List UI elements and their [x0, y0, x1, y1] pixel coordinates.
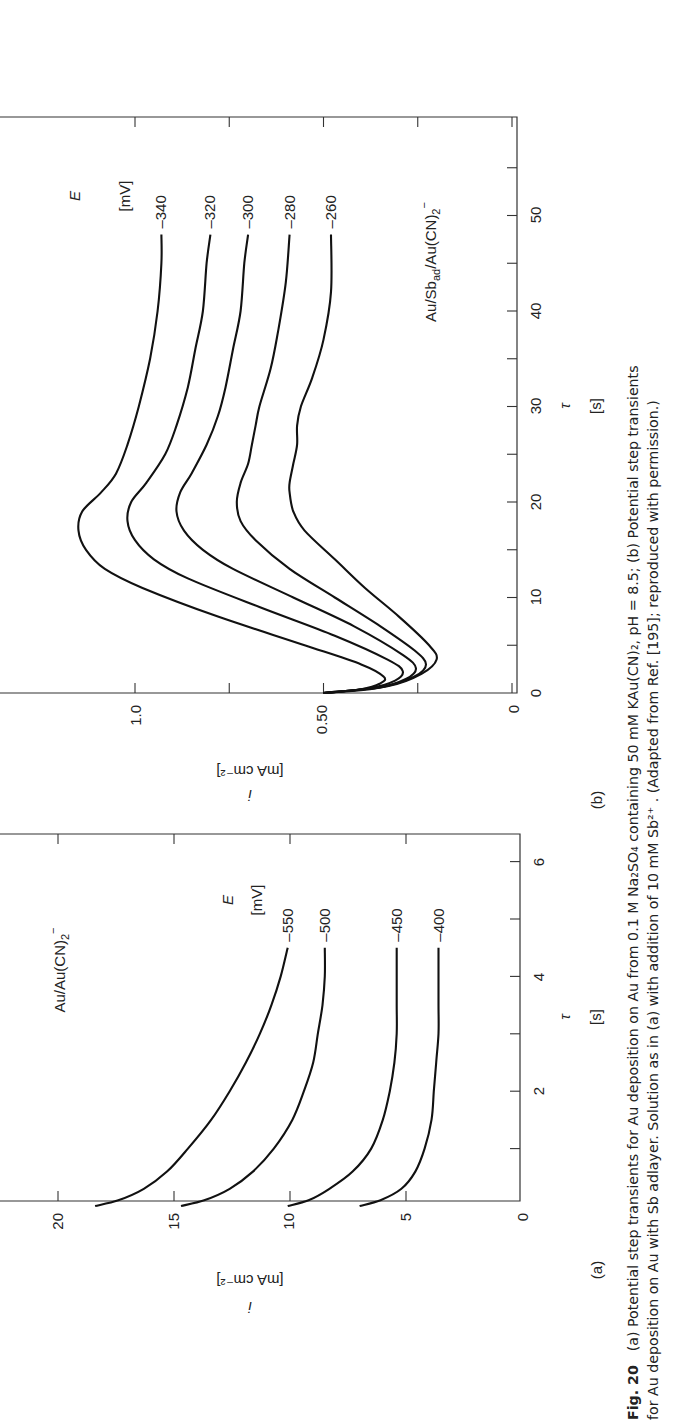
legend-label: –550 — [279, 908, 296, 941]
panel-a-ytick-label: 10 — [280, 1213, 297, 1230]
panel-a-xtick-label: 2 — [530, 1087, 547, 1095]
panel-b-curves — [78, 235, 437, 693]
caption-text-1: (a) Potential step transients for Au dep… — [625, 365, 641, 1351]
panel-b-ytick-label: 0 — [505, 705, 522, 713]
curve--340 — [78, 235, 385, 693]
legend-label: –500 — [316, 908, 333, 941]
panel-a-ytick-label: 15 — [165, 1213, 182, 1230]
panel-b-xtick-label: 10 — [527, 589, 544, 606]
curve--450 — [288, 948, 397, 1206]
panel-a-current-ticks — [58, 834, 406, 1201]
legend-label: –400 — [430, 908, 447, 941]
panel-a-yunit: [mA cm⁻²] — [216, 1272, 283, 1289]
figure-canvas: 1.0 0.50 0 0 10 20 30 40 50 τ [s] [mA cm… — [0, 0, 699, 1423]
legend-label: –280 — [281, 195, 298, 228]
panel-a-legend-title: E — [219, 894, 236, 905]
curve--320 — [127, 235, 403, 693]
panel-b-legend-unit: [mV] — [116, 181, 133, 212]
panel-b-legend: –340–320–300–280–260 — [152, 195, 339, 228]
panel-b-xlabel: τ — [556, 402, 573, 409]
figure-caption: Fig. 20(a) Potential step transients for… — [625, 365, 661, 1420]
panel-b-xtick-label: 0 — [527, 689, 544, 697]
caption-line-2: for Au deposition on Au with Sb adlayer.… — [645, 400, 661, 1420]
panel-a-ytick-label: 20 — [49, 1213, 66, 1230]
caption-line-1: Fig. 20(a) Potential step transients for… — [625, 365, 641, 1420]
curve--500 — [181, 948, 325, 1206]
panel-b-ytick-label: 0.50 — [313, 705, 330, 734]
panel-b-xtick-label: 50 — [527, 207, 544, 224]
panel-b-time-ticks — [507, 168, 517, 646]
curve--400 — [360, 948, 439, 1206]
panel-b-xtick-label: 40 — [527, 303, 544, 320]
panel-a-curves — [95, 948, 439, 1206]
panel-b-system-label: Au/Sbad/Au(CN)2− — [418, 202, 442, 322]
panel-a-time-ticks — [510, 862, 520, 1149]
legend-label: –450 — [388, 908, 405, 941]
panel-b-xtick-label: 20 — [527, 494, 544, 511]
panel-b: 1.0 0.50 0 0 10 20 30 40 50 τ [s] [mA cm… — [0, 117, 605, 809]
panel-a-xtick-label: 6 — [530, 858, 547, 866]
panel-a-legend: –550–500–450–400 — [279, 908, 447, 941]
panel-a-xtick-label: 4 — [530, 973, 547, 981]
figure-number: Fig. 20 — [625, 1365, 641, 1420]
legend-label: –340 — [152, 195, 169, 228]
panel-b-ylabel: i — [248, 787, 252, 804]
panel-a-label: (a) — [588, 1261, 605, 1279]
legend-label: –300 — [239, 195, 256, 228]
legend-label: –260 — [322, 195, 339, 228]
curve--300 — [176, 235, 416, 693]
panel-b-label: (b) — [588, 791, 605, 809]
panel-b-xtick-label: 30 — [527, 398, 544, 415]
legend-label: –320 — [201, 195, 218, 228]
panel-b-legend-title: E — [66, 190, 83, 201]
panel-a-legend-unit: [mV] — [248, 885, 265, 916]
panel-b-xunit: [s] — [587, 398, 604, 414]
curve--280 — [237, 235, 426, 693]
panel-b-yunit: [mA cm⁻²] — [216, 763, 283, 780]
panel-b-ytick-label: 1.0 — [127, 705, 144, 726]
panel-a: 20 15 10 5 0 2 4 6 τ [s] [mA cm⁻²] i Au/… — [0, 834, 605, 1316]
panel-a-xlabel: τ — [556, 1013, 573, 1020]
panel-a-ytick-label: 5 — [397, 1213, 414, 1221]
panel-a-xunit: [s] — [587, 1009, 604, 1025]
panel-a-ytick-label: 0 — [514, 1213, 531, 1221]
curve--260 — [289, 235, 437, 693]
panel-a-ylabel: i — [248, 1299, 252, 1316]
panel-a-system-label: Au/Au(CN)2− — [47, 927, 71, 1012]
